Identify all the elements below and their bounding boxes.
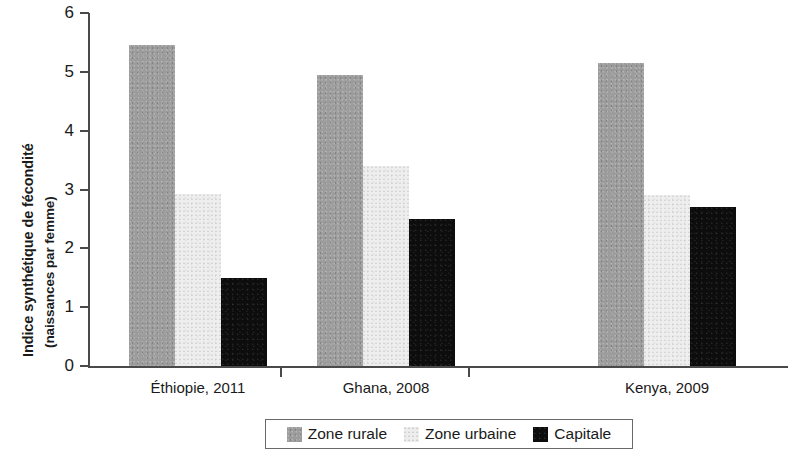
bar-capitale [409,219,455,366]
y-axis-tick-label-text: 4 [46,122,74,139]
bar-capitale [690,207,736,366]
y-axis-tick-label-text: 0 [46,357,74,374]
fertility-bar-chart: Indice synthétique de fécondité (naissan… [0,0,803,453]
y-axis-tick-label: 4 [42,122,74,140]
bar-rural [317,75,363,366]
legend-label-urbaine: Zone urbaine [425,426,516,442]
bar-urbaine [644,195,690,366]
y-axis-tick [80,365,89,367]
y-axis-title-line1: Indice synthétique de fécondité [20,143,36,357]
y-axis-tick-label: 3 [42,181,74,199]
y-axis-tick [80,306,89,308]
y-axis-tick [80,12,89,14]
y-axis-tick [80,247,89,249]
legend-label-capitale: Capitale [554,426,611,442]
bar-rural [598,63,644,366]
y-axis-tick [80,71,89,73]
x-axis-category-label: Ghana, 2008 [296,379,476,396]
legend-item-rural: Zone rurale [287,426,387,442]
x-axis-category-label: Éthiopie, 2011 [108,379,288,396]
y-axis-tick-label: 5 [42,63,74,81]
y-axis-tick-label: 2 [42,239,74,257]
y-axis-tick-label-text: 6 [46,4,74,21]
y-axis-tick [80,130,89,132]
x-axis-separator [468,368,470,377]
legend-swatch-rural-icon [287,427,302,442]
legend-label-rural: Zone rurale [308,426,387,442]
chart-legend: Zone rurale Zone urbaine Capitale [265,419,633,449]
y-axis-tick-label-text: 5 [46,63,74,80]
legend-swatch-capitale-icon [533,427,548,442]
y-axis-tick-label: 6 [42,4,74,22]
legend-swatch-urbaine-icon [404,427,419,442]
bar-urbaine [363,166,409,366]
x-axis-separator [280,368,282,377]
bar-capitale [221,278,267,366]
y-axis-tick [80,189,89,191]
y-axis-tick-label: 1 [42,298,74,316]
bar-rural [129,45,175,366]
y-axis-tick-label-text: 2 [46,239,74,256]
x-axis-line [88,366,788,368]
y-axis-tick-label-text: 3 [46,181,74,198]
y-axis-title-line2: (naissances par femme) [42,196,57,348]
bar-urbaine [175,194,221,366]
legend-item-capitale: Capitale [533,426,611,442]
y-axis-tick-label-text: 1 [46,298,74,315]
x-axis-category-label: Kenya, 2009 [577,379,757,396]
y-axis-tick-label: 0 [42,357,74,375]
legend-item-urbaine: Zone urbaine [404,426,516,442]
